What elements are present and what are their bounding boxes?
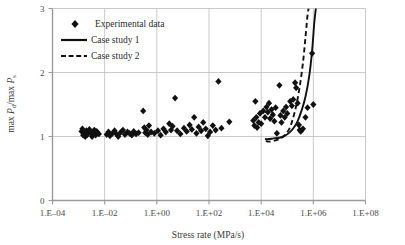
x-tick-label: 1.E+04 xyxy=(248,208,275,218)
y-axis-title: max Pd/max Ps xyxy=(6,75,17,133)
x-tick-label: 1.E+00 xyxy=(144,208,171,218)
y-tick-label: 3 xyxy=(40,4,45,14)
x-tick-label: 1.E+02 xyxy=(196,208,222,218)
legend-label-case-study-2: Case study 2 xyxy=(91,51,140,61)
y-tick-label: 2 xyxy=(40,68,45,78)
x-tick-label: 1.E‒02 xyxy=(92,208,118,218)
x-tick-label: 1.E‒04 xyxy=(40,208,66,218)
y-tick-label: 1 xyxy=(40,132,45,142)
x-tick-label: 1.E+08 xyxy=(352,208,379,218)
legend-label-case-study-1: Case study 1 xyxy=(91,35,140,45)
svg-text:max Pd/max Ps: max Pd/max Ps xyxy=(6,75,17,133)
x-axis-title: Stress rate (MPa/s) xyxy=(172,230,244,241)
stress-rate-scatter-chart: 1.E‒041.E‒021.E+001.E+021.E+041.E+061.E+… xyxy=(0,0,405,245)
y-tick-label: 0 xyxy=(40,196,45,206)
chart-figure: 1.E‒041.E‒021.E+001.E+021.E+041.E+061.E+… xyxy=(0,0,405,245)
legend-label-experimental-data: Experimental data xyxy=(95,19,165,29)
x-tick-label: 1.E+06 xyxy=(300,208,327,218)
